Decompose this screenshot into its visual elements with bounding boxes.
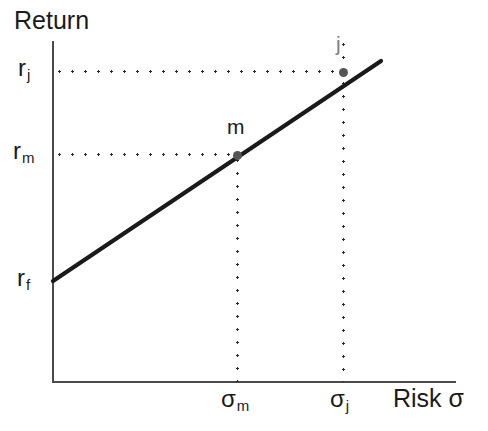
- data-point-j: [339, 68, 348, 77]
- data-point-label-m: m: [227, 116, 245, 137]
- y-tick-rf-base: r: [17, 264, 25, 291]
- x-axis-title: Risk σ: [393, 386, 464, 411]
- y-tick-rm-base: r: [13, 137, 21, 164]
- data-point-m: [233, 151, 242, 160]
- y-tick-rj-base: r: [18, 54, 26, 81]
- x-tick-label-sigma-j: σj: [330, 387, 348, 411]
- x-tick-sigma-m-base: σ: [221, 385, 236, 412]
- y-tick-rj-sub: j: [27, 66, 30, 83]
- x-tick-sigma-m-sub: m: [237, 397, 250, 414]
- x-tick-sigma-j-sub: j: [346, 397, 349, 414]
- sml-chart-figure: Return m j rj rm rf σm σj Risk σ: [0, 0, 488, 431]
- y-tick-label-rf: rf: [17, 266, 29, 290]
- x-tick-label-sigma-m: σm: [221, 387, 248, 411]
- y-tick-rf-sub: f: [26, 276, 30, 293]
- y-tick-label-rj: rj: [18, 56, 29, 80]
- y-axis-title: Return: [14, 8, 89, 33]
- data-point-label-j: j: [336, 33, 341, 54]
- y-tick-label-rm: rm: [13, 139, 34, 163]
- x-tick-sigma-j-base: σ: [330, 385, 345, 412]
- security-market-line: [52, 55, 382, 287]
- x-axis-line: [52, 381, 456, 383]
- y-tick-rm-sub: m: [22, 149, 35, 166]
